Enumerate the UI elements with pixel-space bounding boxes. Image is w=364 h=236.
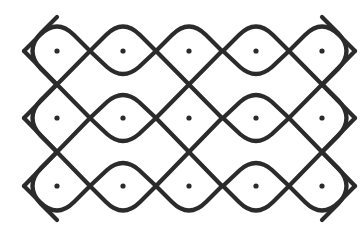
kolam-dot (54, 48, 59, 53)
kolam-dot (54, 115, 59, 120)
kolam-dot (253, 183, 258, 188)
kolam-dot (319, 48, 324, 53)
kolam-line (90, 186, 156, 211)
kolam-line (90, 163, 156, 186)
kolam-dot (186, 115, 191, 120)
kolam-line (223, 51, 289, 74)
kolam-diagram (0, 0, 364, 236)
kolam-dot (319, 183, 324, 188)
kolam-svg (0, 0, 364, 236)
kolam-dot (253, 115, 258, 120)
kolam-dot (54, 183, 59, 188)
kolam-line (223, 118, 289, 141)
kolam-dot (120, 48, 125, 53)
kolam-dot (120, 183, 125, 188)
kolam-dots (54, 48, 324, 188)
kolam-dot (120, 115, 125, 120)
kolam-dot (186, 183, 191, 188)
kolam-line (90, 51, 156, 74)
kolam-dot (319, 115, 324, 120)
kolam-line (90, 27, 156, 52)
kolam-dot (253, 48, 258, 53)
kolam-line (223, 163, 289, 186)
kolam-line (223, 186, 289, 211)
kolam-line (156, 186, 222, 211)
kolam-line (223, 95, 289, 118)
kolam-line (90, 118, 156, 141)
kolam-line (223, 27, 289, 52)
kolam-dot (186, 48, 191, 53)
kolam-line (156, 27, 222, 52)
kolam-line (90, 95, 156, 118)
